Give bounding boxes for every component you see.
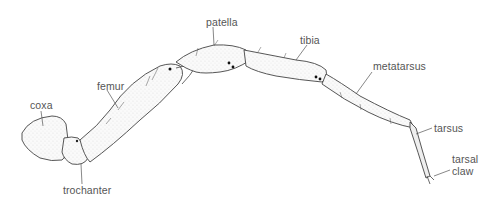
label-tarsal-claw-line1: tarsal bbox=[452, 154, 478, 165]
patella-segment bbox=[176, 45, 250, 73]
label-tibia: tibia bbox=[300, 35, 320, 46]
spider-leg-diagram bbox=[0, 0, 492, 204]
label-coxa: coxa bbox=[30, 100, 53, 111]
metatarsus-leader bbox=[356, 72, 372, 94]
label-tarsus: tarsus bbox=[434, 123, 463, 134]
coxa-segment bbox=[22, 116, 68, 161]
label-trochanter: trochanter bbox=[63, 185, 111, 196]
label-femur: femur bbox=[97, 81, 124, 92]
tibia-leader bbox=[296, 45, 307, 60]
label-tarsal-claw-line2: claw bbox=[452, 166, 473, 177]
trochanter-leader bbox=[81, 164, 82, 184]
femur-leader bbox=[107, 90, 118, 108]
label-metatarsus: metatarsus bbox=[373, 61, 426, 72]
tarsus-leader bbox=[416, 128, 432, 134]
tarsus-segment bbox=[410, 122, 430, 178]
label-patella: patella bbox=[206, 17, 238, 28]
patella-leader bbox=[213, 27, 214, 45]
tarsal-claw-leader bbox=[434, 170, 450, 176]
metatarsus-segment bbox=[322, 74, 414, 128]
femur-segment bbox=[80, 64, 183, 162]
